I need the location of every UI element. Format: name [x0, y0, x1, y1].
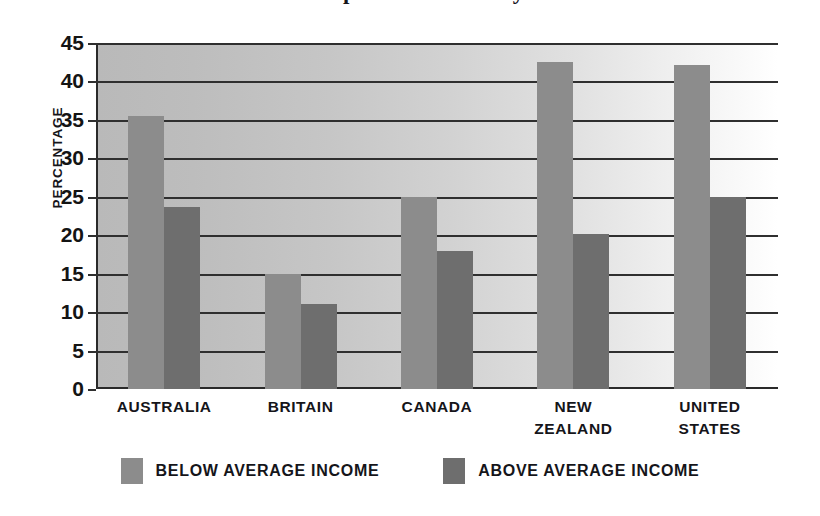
x-axis-label-line: ZEALAND: [505, 418, 641, 440]
x-axis-labels: AUSTRALIABRITAINCANADANEWZEALANDUNITEDST…: [96, 396, 778, 454]
x-axis-label: UNITEDSTATES: [642, 396, 778, 440]
x-axis-label: CANADA: [369, 396, 505, 418]
legend-item[interactable]: BELOW AVERAGE INCOME: [121, 458, 380, 484]
x-axis-label: BRITAIN: [232, 396, 368, 418]
y-axis-tick-label: 10: [61, 300, 84, 324]
y-axis-tick: [88, 351, 96, 353]
y-axis-tick: [88, 235, 96, 237]
bar-chart: Comparison of Poverty PERCENTAGE 0510152…: [0, 0, 820, 516]
y-axis-tick-label: 35: [61, 108, 84, 132]
y-axis-tick: [88, 312, 96, 314]
y-axis-tick-label: 30: [61, 146, 84, 170]
y-axis-tick: [88, 389, 96, 391]
chart-title-cropped: Comparison of Poverty: [0, 0, 820, 14]
x-axis-label: AUSTRALIA: [96, 396, 232, 418]
x-axis-label-line: NEW: [554, 398, 592, 415]
bar: [573, 234, 609, 389]
legend-swatch: [443, 458, 465, 484]
x-axis-label-line: BRITAIN: [268, 398, 334, 415]
bar: [710, 197, 746, 389]
y-axis-tick-label: 15: [61, 262, 84, 286]
bar: [401, 197, 437, 389]
legend-swatch: [121, 458, 143, 484]
y-axis-tick-label: 40: [61, 69, 84, 93]
y-axis-tick-label: 45: [61, 31, 84, 55]
plot-area: 051015202530354045: [96, 43, 778, 389]
y-axis-tick: [88, 197, 96, 199]
y-axis-tick: [88, 43, 96, 45]
bar: [301, 304, 337, 389]
bar: [265, 274, 301, 389]
chart-title: Comparison of Poverty: [0, 0, 820, 5]
y-axis-tick-label: 20: [61, 223, 84, 247]
x-axis-label-line: UNITED: [679, 398, 740, 415]
x-axis-label: NEWZEALAND: [505, 396, 641, 440]
x-axis-label-line: STATES: [642, 418, 778, 440]
legend-label: BELOW AVERAGE INCOME: [156, 462, 380, 480]
bars-layer: [96, 43, 778, 389]
legend-label: ABOVE AVERAGE INCOME: [478, 462, 699, 480]
legend-item[interactable]: ABOVE AVERAGE INCOME: [443, 458, 699, 484]
chart-legend: BELOW AVERAGE INCOMEABOVE AVERAGE INCOME: [0, 458, 820, 484]
y-axis-tick: [88, 274, 96, 276]
x-axis-label-line: CANADA: [402, 398, 473, 415]
y-axis-tick-label: 0: [72, 377, 84, 401]
bar: [437, 251, 473, 389]
bar: [164, 207, 200, 389]
y-axis-tick-label: 25: [61, 185, 84, 209]
bar: [674, 65, 710, 389]
x-axis-label-line: AUSTRALIA: [117, 398, 212, 415]
y-axis-tick: [88, 158, 96, 160]
y-axis-tick-label: 5: [72, 339, 84, 363]
bar: [537, 62, 573, 389]
y-axis-tick: [88, 120, 96, 122]
bar: [128, 116, 164, 389]
y-axis-tick: [88, 81, 96, 83]
